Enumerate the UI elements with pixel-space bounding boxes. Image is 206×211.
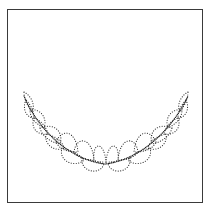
garland-spine	[24, 96, 188, 164]
dotted-garland-drawing	[0, 0, 206, 211]
lower-petals	[24, 100, 187, 171]
upper-petals	[24, 92, 188, 162]
